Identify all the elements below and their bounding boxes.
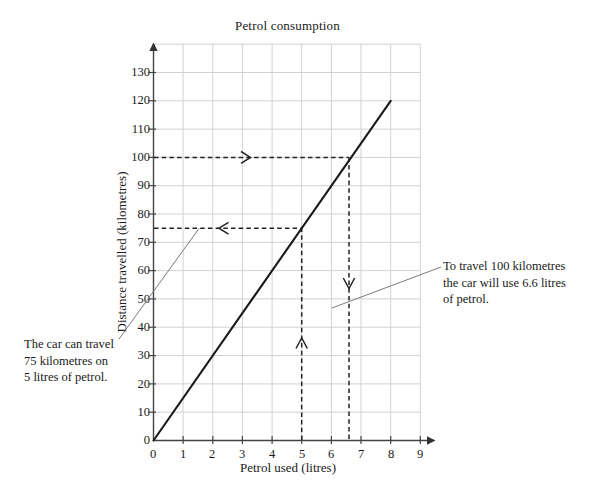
annotation-left-line-2: 75 kilometres on — [24, 353, 152, 370]
annotation-left-line-3: 5 litres of petrol. — [24, 369, 152, 386]
annotation-right: To travel 100 kilometres the car will us… — [443, 258, 583, 308]
grid-horizontal — [153, 44, 420, 440]
petrol-consumption-figure: Petrol consumption Distance travelled (k… — [0, 0, 591, 494]
annotation-left: The car can travel 75 kilometres on 5 li… — [24, 336, 152, 386]
annotation-right-line-1: To travel 100 kilometres — [443, 258, 583, 275]
leader-line-left-annotation — [119, 229, 199, 340]
annotation-right-line-3: of petrol. — [443, 291, 583, 308]
plot-canvas — [0, 0, 591, 494]
annotation-right-line-2: the car will use 6.6 litres — [443, 275, 583, 292]
annotation-left-line-1: The car can travel — [24, 336, 152, 353]
